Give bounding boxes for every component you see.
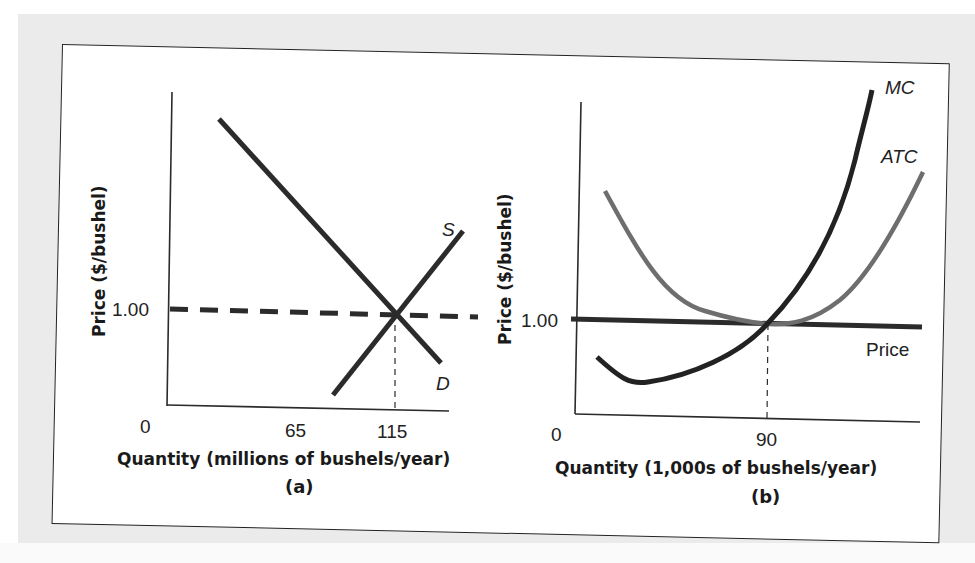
panel-a-y-axis [167, 92, 172, 406]
supply-label: S [442, 219, 455, 240]
demand-curve [219, 119, 441, 363]
panel-a-y-axis-title: Price ($/bushel) [89, 185, 109, 337]
panel-b-label: (b) [751, 486, 780, 507]
panel-b-x-axis [575, 414, 920, 422]
panel-a: S D 1.00 0 65 115 Price ($/bushel) Quant… [89, 92, 478, 497]
atc-label: ATC [880, 146, 918, 167]
panel-a-price-dashed-line [170, 309, 478, 317]
panel-b-x-tick-90: 90 [756, 429, 777, 450]
demand-label: D [436, 373, 450, 394]
panel-b-origin-label: 0 [551, 424, 562, 445]
panel-b: MC ATC Price 1.00 0 90 Price ($/bushel) … [495, 77, 923, 507]
price-label: Price [866, 339, 909, 360]
mc-curve [597, 90, 872, 383]
atc-curve [605, 172, 923, 324]
panel-a-x-tick-115: 115 [377, 421, 407, 442]
panel-a-x-axis-title: Quantity (millions of bushels/year) [117, 449, 450, 469]
figure: S D 1.00 0 65 115 Price ($/bushel) Quant… [0, 0, 975, 563]
panel-a-x-tick-65: 65 [285, 420, 306, 441]
mc-label: MC [885, 77, 915, 98]
panel-b-y-axis-title: Price ($/bushel) [495, 193, 515, 345]
panel-b-quantity-drop-line [767, 324, 768, 418]
panel-b-y-tick-1.00: 1.00 [521, 310, 558, 331]
panel-a-y-tick-1.00: 1.00 [112, 299, 149, 320]
panel-a-label: (a) [285, 476, 314, 497]
panel-a-x-axis [167, 405, 449, 411]
panel-a-origin-label: 0 [140, 416, 151, 437]
panel-b-y-axis [575, 102, 581, 414]
panel-b-x-axis-title: Quantity (1,000s of bushels/year) [555, 458, 877, 478]
